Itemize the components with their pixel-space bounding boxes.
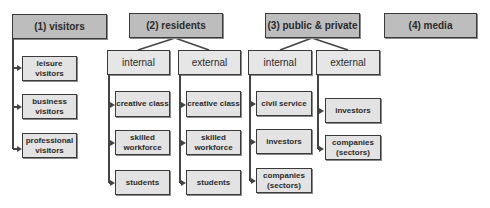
leaf-residents-internal-skilled-workforce: skilled workforce (115, 130, 170, 155)
residents-internal: internal (107, 50, 170, 75)
leaf-public-internal-companies: companies (sectors) (256, 168, 312, 193)
residents-external-branch-line (179, 75, 181, 183)
category-media: (4) media (384, 13, 477, 38)
category-visitors-label: (1) visitors (34, 21, 85, 32)
public-internal: internal (248, 50, 312, 75)
arrow-icon (319, 146, 324, 152)
residents-external: external (178, 50, 241, 75)
leaf-residents-external-skilled-workforce: skilled workforce (186, 130, 241, 155)
leaf-public-internal-civil-service: civil service (256, 91, 312, 116)
leaf-business-visitors: business visitors (22, 94, 77, 119)
leaf-residents-external-creative-class: creative class (186, 91, 241, 117)
leaf-leisure-visitors: leisure visitors (22, 56, 77, 81)
category-visitors: (1) visitors (12, 14, 107, 39)
visitors-branch-line (12, 39, 14, 149)
leaf-public-internal-investors: investors (256, 129, 312, 154)
category-residents: (2) residents (129, 13, 223, 38)
leaf-public-external-companies: companies (sectors) (325, 135, 381, 160)
leaf-residents-internal-students: students (115, 170, 170, 195)
category-public-private: (3) public & private (265, 13, 360, 38)
leaf-residents-internal-creative-class: creative class (115, 91, 170, 117)
leaf-public-external-investors: investors (325, 98, 381, 123)
residents-internal-branch-line (108, 75, 110, 183)
public-external: external (316, 50, 380, 75)
leaf-residents-external-students: students (186, 170, 241, 195)
leaf-professional-visitors: professional visitors (22, 133, 77, 158)
public-internal-branch-line (249, 75, 251, 181)
arrow-icon (319, 108, 324, 114)
